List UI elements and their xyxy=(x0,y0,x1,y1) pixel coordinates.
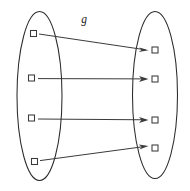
codomain-element-1 xyxy=(152,47,158,53)
mapping-arrow-2 xyxy=(38,76,149,82)
codomain-set-ellipse xyxy=(133,12,178,179)
domain-element-3 xyxy=(29,115,35,121)
diagram-canvas: g xyxy=(0,0,190,191)
codomain-element-2 xyxy=(152,76,158,82)
mapping-arrow-1 xyxy=(39,34,149,52)
function-mapping-diagram: g xyxy=(0,0,190,191)
codomain-element-4 xyxy=(152,145,158,151)
domain-element-1 xyxy=(31,31,37,37)
mapping-arrow-3 xyxy=(38,117,149,123)
domain-element-2 xyxy=(29,75,35,81)
function-label: g xyxy=(81,13,87,26)
codomain-element-3 xyxy=(152,117,158,123)
domain-element-4 xyxy=(32,159,38,165)
